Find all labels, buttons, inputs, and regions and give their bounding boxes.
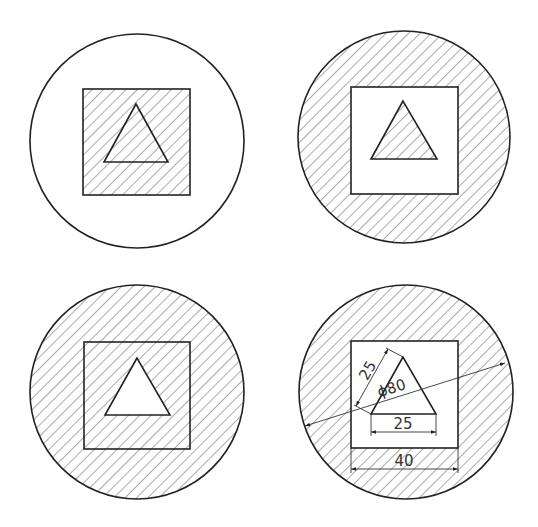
base-label: 25	[393, 415, 412, 433]
panel-bottom-left	[30, 285, 244, 499]
panel-bottom-right: ϕ80 25 25 40	[299, 285, 513, 499]
width-label: 40	[394, 452, 413, 470]
panel-top-right	[298, 31, 510, 243]
technical-drawing: ϕ80 25 25 40	[0, 0, 538, 527]
panel-top-left	[30, 34, 244, 248]
